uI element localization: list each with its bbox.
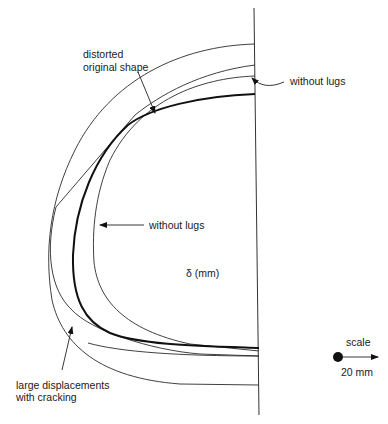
label-scale: scale: [346, 336, 371, 348]
curve-distorted-original: [50, 65, 259, 356]
label-large-displacements-line2: with cracking: [15, 391, 77, 403]
label-delta: δ (mm): [186, 267, 219, 279]
symmetry-axis: [254, 8, 259, 415]
deformation-diagram: distorted original shape without lugs wi…: [0, 0, 388, 424]
label-without-lugs-mid: without lugs: [148, 219, 204, 231]
scale-dot: [333, 352, 343, 362]
label-without-lugs-top: without lugs: [289, 75, 345, 87]
label-large-displacements-line1: large displacements: [16, 379, 109, 391]
label-distorted-line1: distorted: [83, 48, 123, 60]
leader-without-lugs-top: [252, 78, 284, 85]
label-distorted-line2: original shape: [83, 61, 149, 73]
label-scale-value: 20 mm: [341, 366, 373, 378]
leader-large-displacements: [62, 327, 72, 370]
curve-without-lugs: [93, 76, 259, 351]
